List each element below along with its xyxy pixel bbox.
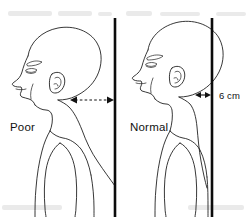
normal-face-profile bbox=[132, 50, 155, 99]
poor-arm-back-edge bbox=[60, 143, 77, 217]
caption-poor: Poor bbox=[10, 121, 35, 133]
poor-mouth-line bbox=[16, 89, 26, 90]
figure-normal-posture: Normal bbox=[130, 21, 223, 217]
normal-ear-outline bbox=[169, 66, 184, 87]
poor-jaw-throat bbox=[35, 105, 52, 131]
normal-mouth-line bbox=[136, 83, 146, 84]
posture-comparison-diagram: Poor bbox=[0, 0, 251, 217]
measurement-poor-gap bbox=[70, 97, 114, 104]
measurement-normal-gap: 6 cm bbox=[195, 90, 240, 101]
poor-chest-front bbox=[35, 131, 50, 217]
normal-neck-back bbox=[179, 97, 207, 188]
normal-eye bbox=[146, 63, 157, 67]
poor-eye bbox=[26, 69, 37, 73]
scan-artifact-smudges bbox=[2, 11, 246, 210]
normal-ear-lobe bbox=[174, 78, 178, 80]
normal-chest-front bbox=[155, 131, 170, 217]
diagram-canvas: Poor bbox=[0, 0, 251, 217]
normal-shoulder-line bbox=[170, 131, 207, 177]
poor-eyebrow bbox=[27, 61, 42, 66]
caption-normal: Normal bbox=[130, 121, 168, 133]
measurement-label-6cm: 6 cm bbox=[219, 90, 240, 101]
normal-eyebrow bbox=[147, 55, 163, 60]
poor-ear-lobe bbox=[54, 84, 58, 86]
poor-neck-back bbox=[58, 100, 115, 186]
measurement-poor-gap-arrowhead-right bbox=[107, 97, 114, 104]
normal-cheek-contour bbox=[151, 78, 153, 93]
poor-ear-outline bbox=[49, 72, 64, 93]
normal-ear-inner bbox=[175, 71, 181, 83]
poor-skull-outline bbox=[28, 27, 101, 100]
poor-cheek-contour bbox=[31, 84, 33, 99]
normal-deltoid-outline bbox=[164, 143, 180, 217]
poor-face-profile bbox=[12, 56, 35, 105]
poor-torso-back-edge bbox=[91, 175, 94, 217]
poor-ear-inner bbox=[55, 77, 61, 89]
figure-poor-posture: Poor bbox=[10, 27, 115, 217]
normal-torso-back-edge bbox=[207, 177, 208, 217]
measurement-normal-gap-arrowhead-right bbox=[205, 92, 211, 98]
